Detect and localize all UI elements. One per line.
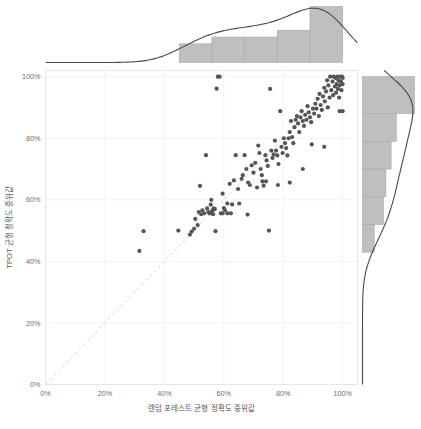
scatter-point [319, 103, 323, 107]
scatter-point [272, 152, 276, 156]
top-histogram-bar [277, 30, 310, 62]
scatter-point [330, 79, 334, 83]
scatter-point [279, 145, 283, 149]
scatter-point [269, 148, 273, 152]
y-tick-label: 40% [26, 257, 41, 266]
scatter-point [286, 136, 290, 140]
scatter-point [192, 227, 196, 231]
scatter-point [320, 108, 324, 112]
scatter-point [341, 76, 345, 80]
y-tick-label: 0% [30, 380, 41, 389]
scatter-point [338, 109, 342, 113]
scatter-point [260, 179, 264, 183]
y-tick-label: 80% [26, 134, 41, 143]
right-histogram-bar [363, 197, 384, 225]
scatter-point [251, 171, 255, 175]
scatter-point [317, 92, 321, 96]
scatter-point [264, 179, 268, 183]
y-tick-label: 20% [26, 319, 41, 328]
x-tick-label: 80% [276, 389, 291, 398]
scatter-point [310, 142, 314, 146]
scatter-point [322, 145, 326, 149]
right-histogram-bar [363, 114, 397, 142]
scatter-point [309, 120, 313, 124]
right-histogram-bar [363, 77, 415, 114]
scatter-point [294, 118, 298, 122]
scatter-point [241, 173, 245, 177]
scatter-point [205, 206, 209, 210]
scatter-point [248, 183, 252, 187]
scatter-point [312, 112, 316, 116]
scatter-point [259, 167, 263, 171]
scatter-point [253, 161, 257, 165]
scatter-point [308, 115, 312, 119]
scatter-point [298, 115, 302, 119]
scatter-point [193, 217, 197, 221]
scatter-point [301, 119, 305, 123]
scatter-point [300, 109, 304, 113]
scatter-point [285, 153, 289, 157]
scatter-point [328, 75, 332, 79]
x-tick-label: 40% [157, 389, 172, 398]
scatter-point [292, 125, 296, 129]
scatter-point [232, 178, 236, 182]
scatter-point [336, 87, 340, 91]
scatter-point [273, 139, 277, 143]
scatter-point [341, 82, 345, 86]
scatter-point [209, 198, 213, 202]
scatter-point [283, 141, 287, 145]
scatter-point [266, 164, 270, 168]
scatter-point [137, 249, 141, 253]
scatter-point [284, 146, 288, 150]
scatter-point [334, 91, 338, 95]
scatter-point [307, 110, 311, 114]
scatter-point [296, 121, 300, 125]
scatter-point [288, 130, 292, 134]
scatter-point [326, 105, 330, 109]
scatter-point [218, 75, 222, 79]
right-histogram-bar [363, 141, 392, 169]
x-tick-label: 60% [217, 389, 232, 398]
scatter-point [268, 87, 272, 91]
scatter-point [314, 107, 318, 111]
scatter-point [329, 88, 333, 92]
scatter-point [324, 89, 328, 93]
scatter-point [255, 185, 259, 189]
right-histogram-bar [363, 224, 375, 252]
scatter-point [321, 94, 325, 98]
scatter-point [263, 153, 267, 157]
top-histogram-bar [212, 37, 245, 62]
scatter-point [202, 211, 206, 215]
scatter-point [276, 162, 280, 166]
scatter-point [240, 177, 244, 181]
scatter-point [322, 86, 326, 90]
y-axis-title: TPOT 균형 정확도 중위값 [4, 186, 14, 268]
right-histogram-bar [363, 169, 386, 197]
scatter-point [295, 114, 299, 118]
scatter-point [304, 118, 308, 122]
scatter-point [245, 212, 249, 216]
scatter-point [228, 182, 232, 186]
scatter-point [242, 153, 246, 157]
scatter-point [213, 229, 217, 233]
scatter-point [325, 78, 329, 82]
scatter-point [305, 104, 309, 108]
scatter-point [303, 113, 307, 117]
scatter-point [244, 167, 248, 171]
scatter-point [198, 184, 202, 188]
scatter-point [297, 130, 301, 134]
scatter-point [317, 114, 321, 118]
scatter-point [327, 95, 331, 99]
scatter-point [337, 95, 341, 99]
scatter-point [316, 97, 320, 101]
scatter-point [260, 173, 264, 177]
scatter-point [313, 102, 317, 106]
scatter-point [301, 167, 305, 171]
y-tick-label: 60% [26, 195, 41, 204]
scatter-point [225, 201, 229, 205]
scatter-point [234, 153, 238, 157]
scatter-point [176, 228, 180, 232]
scatter-point [221, 211, 225, 215]
scatter-point [236, 187, 240, 191]
scatter-point [326, 83, 330, 87]
